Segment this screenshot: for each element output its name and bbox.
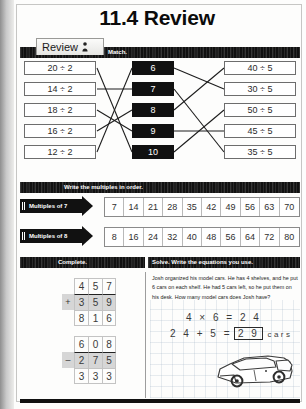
- arrow-head-icon: [82, 226, 93, 246]
- multiples-cell[interactable]: 63: [260, 198, 279, 216]
- digit: 7: [102, 278, 116, 294]
- match-center-item[interactable]: 10: [132, 145, 174, 159]
- multiples-cell[interactable]: 24: [144, 228, 163, 246]
- digit: 7: [88, 352, 102, 368]
- multiples-cell[interactable]: 21: [144, 198, 163, 216]
- answer-digit[interactable]: 3: [102, 368, 116, 384]
- multiples-cell[interactable]: 32: [163, 228, 182, 246]
- multiples-cell[interactable]: 16: [124, 228, 143, 246]
- multiples-cell[interactable]: 42: [202, 198, 221, 216]
- worksheet-page: 11.4 Review Review Match.: [0, 0, 306, 409]
- match-right-item[interactable]: 40 ÷ 5: [224, 61, 296, 75]
- digit: 4: [74, 278, 88, 294]
- operator-symbol: +: [62, 294, 74, 310]
- column-divider: [145, 272, 146, 398]
- multiples-cell[interactable]: 40: [183, 228, 202, 246]
- match-right-item[interactable]: 50 ÷ 5: [224, 103, 296, 117]
- multiples-cell[interactable]: 48: [202, 228, 221, 246]
- multiples-cell[interactable]: 72: [260, 228, 279, 246]
- equation-line-2: 2 4 + 5 =2 9cars: [170, 327, 293, 340]
- answer-digit[interactable]: 3: [88, 368, 102, 384]
- digit: 2: [74, 352, 88, 368]
- match-left-item[interactable]: 12 ÷ 2: [24, 145, 96, 159]
- multiples-cell[interactable]: 80: [280, 228, 299, 246]
- addition-problem: 4 5 7 + 3 5 9 8 1 6: [62, 278, 116, 326]
- match-left-item[interactable]: 14 ÷ 2: [24, 82, 96, 96]
- digit: 0: [88, 336, 102, 352]
- operator-spacer: [62, 278, 74, 294]
- arrow-head-icon: [82, 196, 93, 216]
- review-tab[interactable]: Review: [36, 38, 104, 55]
- equation-2-unit: cars: [267, 330, 292, 339]
- match-instruction-text: Match.: [108, 47, 127, 58]
- match-right-item[interactable]: 35 ÷ 5: [224, 145, 296, 159]
- answer-digit[interactable]: 8: [74, 310, 88, 326]
- page-title: 11.4 Review: [14, 6, 300, 30]
- answer-digit[interactable]: 1: [88, 310, 102, 326]
- word-problem-text: Josh organized his model cars. He has 4 …: [152, 274, 298, 302]
- equation-2-answer[interactable]: 2 9: [234, 327, 263, 340]
- answer-digit[interactable]: 6: [102, 310, 116, 326]
- digit: 5: [102, 352, 116, 368]
- solve-instruction-text: Solve. Write the equations you use.: [152, 257, 253, 268]
- minuend-row: 6 0 8: [62, 336, 116, 352]
- match-left-item[interactable]: 18 ÷ 2: [24, 103, 96, 117]
- subtraction-problem: 6 0 8 – 2 7 5 3 3 3: [62, 336, 116, 384]
- digit: 3: [74, 294, 88, 310]
- answer-digit[interactable]: 3: [74, 368, 88, 384]
- multiples-cell[interactable]: 49: [221, 198, 240, 216]
- multiples-label-arrow: Multiples of 7: [20, 196, 96, 216]
- multiples-instruction-text: Write the multiples in order.: [64, 182, 143, 193]
- operator-symbol: –: [62, 352, 74, 368]
- multiples-cell[interactable]: 64: [241, 228, 260, 246]
- multiples-instruction-bar: Write the multiples in order.: [20, 182, 300, 193]
- multiples-cell[interactable]: 56: [241, 198, 260, 216]
- multiples-cell[interactable]: 70: [280, 198, 299, 216]
- match-center-item[interactable]: 8: [132, 103, 174, 117]
- multiples-label-arrow: Multiples of 8: [20, 226, 96, 246]
- digit: 8: [102, 336, 116, 352]
- multiples-label-text: Multiples of 7: [29, 203, 67, 209]
- complete-instruction-text: Complete.: [58, 257, 87, 268]
- multiples-cell[interactable]: 14: [124, 198, 143, 216]
- sum-row[interactable]: 8 1 6: [62, 310, 116, 326]
- multiples-label-text: Multiples of 8: [29, 233, 67, 239]
- match-area: 20 ÷ 2 14 ÷ 2 18 ÷ 2 16 ÷ 2 12 ÷ 2 6 7 8…: [20, 58, 300, 180]
- multiples-cells: 7 14 21 28 35 42 49 56 63 70: [104, 197, 300, 217]
- solve-instruction-bar: Solve. Write the equations you use.: [148, 257, 300, 268]
- equation-work-area[interactable]: 4 × 6 = 2 4 2 4 + 5 =2 9cars: [150, 300, 300, 398]
- bar-texture: [20, 182, 300, 193]
- match-center-item[interactable]: 7: [132, 82, 174, 96]
- subtrahend-row: – 2 7 5: [62, 352, 116, 368]
- digit: 5: [88, 278, 102, 294]
- bottom-strip: [20, 399, 300, 403]
- match-left-item[interactable]: 16 ÷ 2: [24, 124, 96, 138]
- match-center-item[interactable]: 6: [132, 61, 174, 75]
- person-icon: [82, 38, 88, 56]
- multiples-cell[interactable]: 7: [105, 198, 124, 216]
- match-right-item[interactable]: 30 ÷ 5: [224, 82, 296, 96]
- match-center-item[interactable]: 9: [132, 124, 174, 138]
- multiples-label-body: Multiples of 7: [20, 199, 82, 213]
- digit: 5: [88, 294, 102, 310]
- digit: 6: [74, 336, 88, 352]
- multiples-row-7: Multiples of 7 7 14 21 28 35 42 49 56 63…: [20, 196, 300, 216]
- equation-line-1: 4 × 6 = 2 4: [186, 312, 261, 323]
- multiples-cells: 8 16 24 32 40 48 56 64 72 80: [104, 227, 300, 247]
- review-tab-label: Review: [42, 41, 78, 53]
- difference-row[interactable]: 3 3 3: [62, 368, 116, 384]
- multiples-cell[interactable]: 28: [163, 198, 182, 216]
- equation-2-prefix: 2 4 + 5 =: [170, 328, 232, 339]
- multiples-cell[interactable]: 35: [183, 198, 202, 216]
- match-right-item[interactable]: 45 ÷ 5: [224, 124, 296, 138]
- addend-row-top: 4 5 7: [62, 278, 116, 294]
- binder-edge: [0, 0, 14, 409]
- match-left-item[interactable]: 20 ÷ 2: [24, 61, 96, 75]
- multiples-row-8: Multiples of 8 8 16 24 32 40 48 56 64 72…: [20, 226, 300, 246]
- multiples-label-body: Multiples of 8: [20, 229, 82, 243]
- match-connector-lines: [20, 58, 300, 180]
- operator-spacer: [62, 368, 74, 384]
- operator-spacer: [62, 336, 74, 352]
- multiples-cell[interactable]: 56: [221, 228, 240, 246]
- multiples-cell[interactable]: 8: [105, 228, 124, 246]
